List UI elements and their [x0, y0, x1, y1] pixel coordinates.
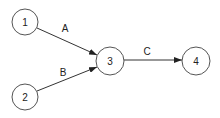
node-3: 3: [96, 47, 124, 75]
edge-a: A: [37, 23, 97, 55]
node-2-label: 2: [22, 92, 28, 103]
network-diagram: A B C 1 2 3 4: [0, 0, 220, 118]
edge-b-line: [37, 67, 97, 91]
node-1-label: 1: [22, 17, 28, 28]
node-4-label: 4: [193, 56, 199, 67]
node-3-label: 3: [107, 56, 113, 67]
edge-b-label: B: [60, 67, 67, 78]
edge-c-label: C: [143, 46, 150, 57]
edge-c: C: [124, 46, 182, 60]
edge-b: B: [37, 67, 97, 91]
node-1: 1: [12, 9, 38, 35]
edge-a-label: A: [62, 23, 69, 34]
node-4: 4: [182, 47, 210, 75]
node-2: 2: [12, 84, 38, 110]
